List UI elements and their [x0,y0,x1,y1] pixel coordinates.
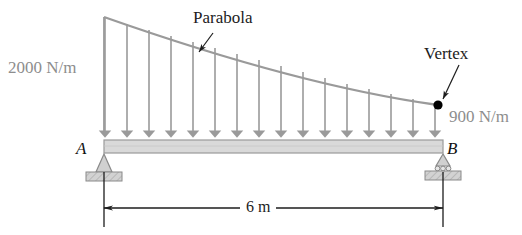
beam-load-diagram: 2000 N/m 900 N/m Parabola Vertex A B 6 m [0,0,522,235]
roller-wheel [441,166,446,171]
support-a-label: A [76,139,86,159]
vertex-dot [433,100,442,109]
vertex-leader-line [443,65,459,99]
load-left-label: 2000 N/m [8,58,76,78]
roller-wheel [435,166,440,171]
vertex-label: Vertex [424,44,468,64]
span-dimension-label: 6 m [240,198,276,216]
support-b-label: B [447,139,457,159]
load-right-label: 900 N/m [449,107,509,127]
beam [104,140,443,153]
roller-wheel [446,166,451,171]
pin-triangle [96,154,112,172]
parabola-label: Parabola [193,8,252,28]
parabola-curve [104,17,438,105]
parabola-leader-line [199,33,213,52]
